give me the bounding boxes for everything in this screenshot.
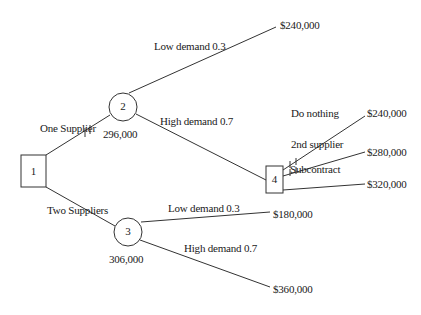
payoff-do-nothing: $240,000: [367, 108, 407, 119]
payoff-subcontract: $320,000: [367, 179, 407, 190]
node-2-label: 2: [109, 101, 137, 112]
node-4-label: 4: [266, 174, 283, 185]
branch-label-n2-low: Low demand 0.3: [154, 41, 225, 52]
branch-label-n3-low: Low demand 0.3: [168, 203, 239, 214]
branch-label-n3-high: High demand 0.7: [184, 243, 257, 254]
branch-subcontract: [283, 184, 365, 190]
branch-one-supplier: [46, 115, 110, 155]
branch-label-do-nothing: Do nothing: [291, 108, 339, 119]
payoff-n3-low: $180,000: [273, 209, 313, 220]
branch-label-n2-high: High demand 0.7: [160, 116, 233, 127]
branch-label-second-supplier: 2nd supplier: [291, 139, 343, 150]
branch-label-one-supplier: One Supplier: [40, 123, 96, 134]
payoff-second-supplier: $280,000: [367, 147, 407, 158]
node-3-expected-value: 306,000: [109, 254, 143, 265]
branch-label-two-suppliers: Two Suppliers: [47, 205, 108, 216]
branch-n2-low: [129, 27, 276, 93]
payoff-n2-low: $240,000: [280, 20, 320, 31]
payoff-n3-high: $360,000: [273, 284, 313, 295]
node-3-label: 3: [114, 226, 142, 237]
branch-label-subcontract: Subcontract: [290, 164, 340, 175]
node-1-label: 1: [21, 166, 46, 177]
node-2-expected-value: 296,000: [103, 129, 137, 140]
